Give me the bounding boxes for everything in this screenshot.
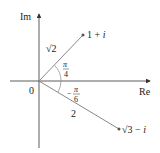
vector-1-plus-i [39,35,83,81]
angle-pi-over-4-num: π [63,60,68,69]
modulus-sqrt2-label: √2 [46,43,57,54]
imaginary-axis-label: Im [20,11,31,22]
complex-plane-diagram: Im Re 0 1 + i √2 π 4 √3 − i 2 − π 6 [0,0,160,153]
vector-sqrt3-minus-i [39,81,119,129]
angle-pi-over-6-den: 6 [74,95,78,104]
point-1-plus-i [82,34,85,37]
angle-arc-pi-over-4 [55,65,61,81]
origin-label: 0 [29,85,34,96]
point-sqrt3-minus-i-label: √3 − i [122,124,146,135]
point-sqrt3-minus-i [118,128,121,131]
angle-arc-minus-pi-over-6 [58,81,61,92]
angle-pi-over-4-den: 4 [64,70,68,79]
real-axis-label: Re [139,86,151,97]
modulus-2-label: 2 [71,108,76,119]
point-1-plus-i-label: 1 + i [87,29,106,40]
angle-minus-sign: − [67,89,72,98]
angle-pi-over-6-num: π [74,85,79,94]
